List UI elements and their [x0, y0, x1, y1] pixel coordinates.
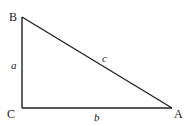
- triangle-diagram: B C A a b c: [0, 0, 190, 126]
- side-label-c: c: [102, 52, 107, 64]
- side-label-b: b: [94, 111, 100, 123]
- vertex-label-b: B: [9, 10, 17, 24]
- vertex-label-c: C: [7, 107, 15, 121]
- vertex-label-a: A: [174, 107, 183, 121]
- side-c-line: [22, 17, 172, 108]
- side-label-a: a: [11, 59, 17, 71]
